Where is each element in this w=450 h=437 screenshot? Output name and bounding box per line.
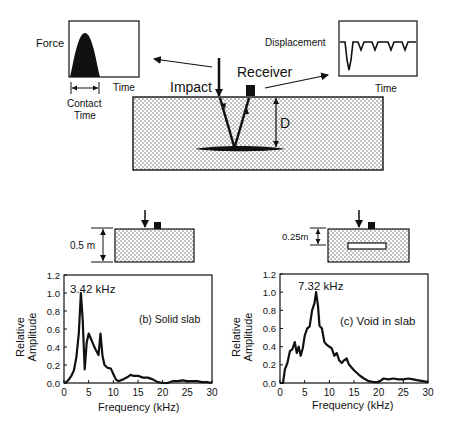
force-pointer-arrow [154, 59, 212, 67]
receiver-transducer [246, 85, 255, 96]
x-tick-label: 10 [108, 387, 120, 398]
x-tick-label: 0 [61, 387, 67, 398]
y-tick-label: 1.2 [263, 269, 276, 280]
y-axis-label-line2: Amplitude [26, 313, 38, 362]
chart-title: (b) Solid slab [139, 313, 200, 325]
force-time-label: Time [113, 82, 135, 93]
x-tick-label: 25 [398, 387, 410, 398]
y-tick-label: 0.4 [263, 341, 276, 352]
peak-annotation: 3.42 kHz [70, 283, 116, 295]
slab-b-thickness-label: 0.5 m [70, 240, 95, 251]
x-tick-label: 25 [182, 387, 194, 398]
receiver-c [368, 222, 375, 229]
receiver-b [154, 222, 161, 229]
x-tick-label: 0 [277, 387, 283, 398]
void [348, 243, 386, 249]
x-tick-label: 10 [324, 387, 336, 398]
x-tick-label: 15 [132, 387, 144, 398]
x-tick-label: 5 [86, 387, 92, 398]
force-axis-label: Force [36, 37, 64, 49]
x-tick-label: 30 [422, 387, 434, 398]
solid-slab-spectrum-chart: 0.00.20.40.60.81.01.2 051015202530 3.42 … [14, 270, 218, 414]
y-tick-label: 0.0 [263, 378, 276, 389]
solid-slab-diagram: 0.5 m [70, 210, 194, 262]
y-tick-label: 0.8 [47, 306, 60, 317]
impact-echo-figure: Force Time Contact Time Displacement Tim… [0, 0, 450, 437]
x-tick-label: 30 [206, 387, 218, 398]
x-axis-label: Frequency (kHz) [98, 401, 179, 413]
receiver-label: Receiver [237, 64, 293, 80]
x-tick-label: 20 [373, 387, 385, 398]
y-tick-label: 0.6 [263, 323, 276, 334]
y-tick-label: 1.0 [47, 288, 60, 299]
y-tick-label: 0.2 [263, 359, 276, 370]
y-tick-label: 0.4 [47, 342, 60, 353]
y-tick-label: 0.2 [47, 360, 60, 371]
x-tick-label: 20 [157, 387, 169, 398]
displacement-axis-label: Displacement [265, 37, 326, 48]
impact-label: Impact [170, 79, 212, 95]
force-plot: Force Time Contact Time [36, 21, 139, 121]
contact-label-2: Time [74, 110, 96, 121]
peak-annotation: 7.32 kHz [298, 280, 344, 292]
slab-c-void-depth-label: 0.25m [282, 231, 308, 242]
y-tick-label: 1.0 [263, 287, 276, 298]
x-axis-label: Frequency (kHz) [312, 399, 393, 411]
y-tick-label: 0.6 [47, 324, 60, 335]
y-axis-label-line2: Amplitude [242, 313, 254, 362]
y-tick-label: 0.8 [263, 305, 276, 316]
y-tick-label: 1.2 [47, 270, 60, 281]
displacement-time-label: Time [375, 83, 397, 94]
y-axis-label-line1: Relative [230, 317, 242, 357]
chart-title: (c) Void in slab [340, 315, 415, 327]
spectrum-line [64, 293, 212, 383]
y-tick-label: 0.0 [47, 378, 60, 389]
spectrum-line [280, 292, 428, 383]
x-tick-label: 15 [348, 387, 360, 398]
void-slab-diagram: 0.25m [282, 210, 409, 262]
x-tick-label: 5 [302, 387, 308, 398]
depth-label: D [280, 115, 290, 131]
y-axis-label-line1: Relative [14, 317, 26, 357]
void-slab-spectrum-chart: 0.00.20.40.60.81.01.2 051015202530 7.32 … [230, 269, 434, 412]
contact-label-1: Contact [67, 98, 102, 109]
